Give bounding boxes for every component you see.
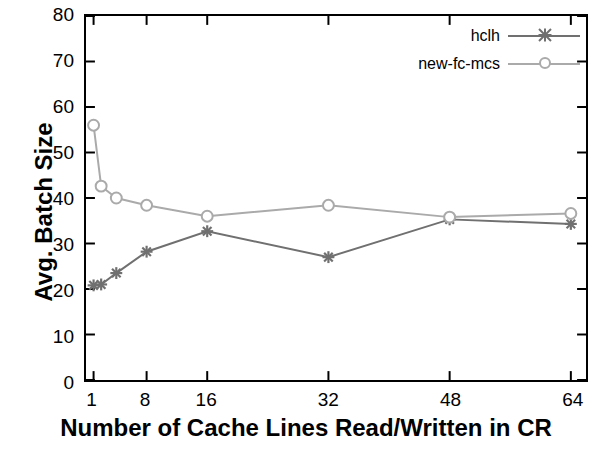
x-tick-label: 16 xyxy=(196,390,217,409)
chart-container: Avg. Batch Size 01020304050607080 181632… xyxy=(0,0,612,449)
circle-marker-icon xyxy=(538,56,552,70)
x-tick-label: 8 xyxy=(140,390,151,409)
legend-item-hclh: hclh xyxy=(400,22,580,50)
x-tick-label: 48 xyxy=(440,390,461,409)
legend-label-new-fc-mcs: new-fc-mcs xyxy=(418,55,500,73)
legend: hclh new-fc-mcs xyxy=(400,22,580,78)
x-tick-label: 1 xyxy=(86,390,97,409)
x-tick-label: 64 xyxy=(562,390,583,409)
star-marker-icon xyxy=(538,28,552,42)
x-tick-label: 32 xyxy=(318,390,339,409)
legend-item-new-fc-mcs: new-fc-mcs xyxy=(400,50,580,78)
legend-label-hclh: hclh xyxy=(471,27,500,45)
x-axis-label: Number of Cache Lines Read/Written in CR xyxy=(0,414,612,442)
legend-swatch-hclh xyxy=(508,26,580,46)
legend-swatch-new-fc-mcs xyxy=(508,54,580,74)
